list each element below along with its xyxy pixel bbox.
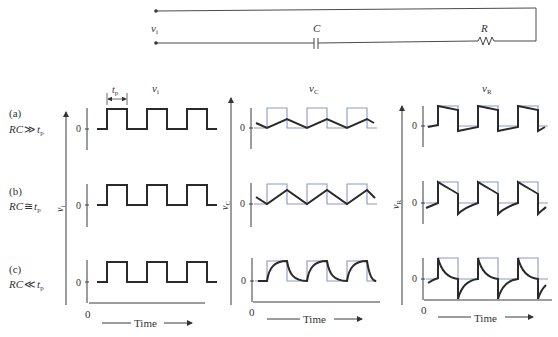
- vi-waveform-c: [97, 262, 217, 282]
- panel-column-vc: vC vC 0 Time 0 0 0: [219, 82, 380, 325]
- bottom-wire-mid: [318, 41, 475, 43]
- y-axis-label-vi: vi: [54, 206, 67, 212]
- resistor-label: R: [480, 22, 488, 34]
- origin-label-vi: 0: [85, 308, 91, 320]
- svg-text:0: 0: [240, 198, 245, 209]
- column-title-vi: vi: [152, 82, 159, 96]
- svg-text:0: 0: [241, 275, 246, 286]
- panel-column-vi: vi tp vi 0 Time 0 0 0: [54, 82, 217, 329]
- svg-text:tp: tp: [112, 84, 119, 97]
- svg-text:0: 0: [412, 120, 417, 131]
- resistor-icon: [475, 37, 497, 45]
- row-a-tag: (a): [9, 107, 22, 120]
- vi-waveform-a: [97, 109, 217, 129]
- column-title-vc: vC: [309, 82, 319, 96]
- y-axis-label-vr: vR: [390, 200, 403, 209]
- row-c-tag: (c): [9, 263, 22, 276]
- column-title-vr: vR: [482, 82, 492, 96]
- circuit-schematic: vi C R: [151, 8, 536, 49]
- input-voltage-label: vi: [151, 22, 158, 36]
- top-wire: [156, 8, 536, 11]
- origin-label-vr: 0: [421, 304, 427, 316]
- pulse-width-dimension: tp: [107, 84, 127, 105]
- svg-text:0: 0: [76, 123, 81, 134]
- vr-waveform-a: [428, 106, 545, 131]
- capacitor-label: C: [313, 22, 321, 34]
- vr-waveform-b: [426, 182, 546, 214]
- svg-text:0: 0: [240, 122, 245, 133]
- vc-waveform-a: [256, 119, 374, 128]
- vr-waveform-c: [428, 258, 546, 299]
- vc-waveform-c: [258, 261, 376, 281]
- panel-column-vr: vR vR 0 Time 0 0 0: [390, 82, 552, 324]
- svg-text:0: 0: [76, 277, 81, 288]
- time-label-vr: Time: [474, 312, 497, 324]
- row-b-tag: (b): [9, 185, 22, 198]
- row-b-condition: RC≅tp: [8, 200, 41, 214]
- row-labels: (a) RC≫tp (b) RC≅tp (c) RC≪tp: [8, 107, 44, 292]
- row-c-condition: RC≪tp: [8, 278, 44, 292]
- svg-text:0: 0: [76, 200, 81, 211]
- vc-waveform-b: [256, 190, 375, 204]
- rc-circuit-waveform-diagram: vi C R (a) RC≫tp (b) RC≅tp (c) RC≪tp vi …: [0, 0, 558, 337]
- time-label-vc: Time: [303, 313, 326, 325]
- svg-text:0: 0: [412, 197, 417, 208]
- time-label-vi: Time: [134, 317, 157, 329]
- origin-label-vc: 0: [249, 306, 255, 318]
- svg-text:0: 0: [412, 273, 417, 284]
- capacitor-icon: [314, 38, 318, 49]
- y-axis-label-vc: vC: [219, 201, 232, 210]
- vi-waveform-b: [97, 185, 217, 205]
- row-a-condition: RC≫tp: [8, 123, 44, 137]
